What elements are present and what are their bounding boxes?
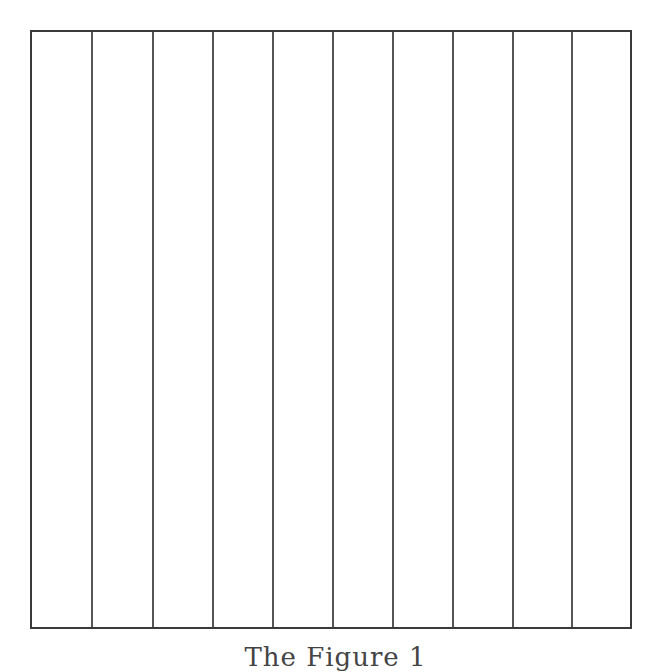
- column-divider-line: [152, 32, 154, 627]
- column-divider-line: [91, 32, 93, 627]
- column-divider-line: [512, 32, 514, 627]
- column-divider-line: [332, 32, 334, 627]
- column-divider-line: [392, 32, 394, 627]
- figure-caption: The Figure 1: [0, 644, 671, 670]
- column-divider-line: [272, 32, 274, 627]
- column-grid-frame: [30, 30, 632, 629]
- column-divider-line: [571, 32, 573, 627]
- column-divider-line: [452, 32, 454, 627]
- column-divider-line: [212, 32, 214, 627]
